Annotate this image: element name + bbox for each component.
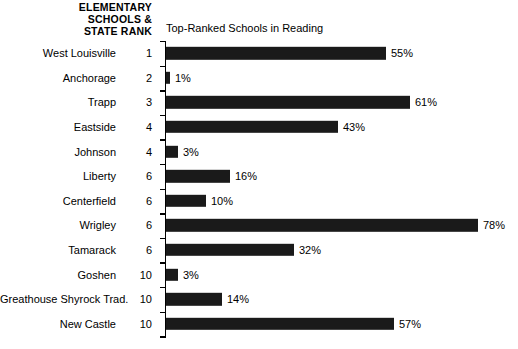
category-label: Trapp bbox=[0, 96, 116, 108]
bar-value-label: 78% bbox=[483, 219, 505, 231]
bar-row: West Louisville155% bbox=[0, 41, 518, 66]
bar-value-label: 57% bbox=[399, 318, 421, 330]
bar-value-label: 3% bbox=[183, 146, 199, 158]
bar-row: Centerfield610% bbox=[0, 189, 518, 214]
axis-tick-mark bbox=[160, 213, 165, 214]
bar-row: Liberty616% bbox=[0, 164, 518, 189]
bar bbox=[166, 170, 230, 182]
axis-tick-mark bbox=[160, 336, 165, 337]
bar-row: Eastside443% bbox=[0, 115, 518, 140]
axis-tick-mark bbox=[160, 90, 165, 91]
axis-header-line-3: STATE RANK bbox=[0, 26, 152, 38]
bar-row: Tamarack632% bbox=[0, 238, 518, 263]
bar bbox=[166, 47, 386, 59]
bar-row: Johnson43% bbox=[0, 139, 518, 164]
bar bbox=[166, 195, 206, 207]
state-rank-label: 6 bbox=[118, 244, 152, 256]
state-rank-label: 4 bbox=[118, 146, 152, 158]
bar bbox=[166, 293, 222, 305]
category-label: Anchorage bbox=[0, 72, 116, 84]
category-label: Johnson bbox=[0, 146, 116, 158]
bar-value-label: 14% bbox=[227, 293, 249, 305]
category-label: New Castle bbox=[0, 318, 116, 330]
axis-tick-mark bbox=[160, 41, 165, 42]
bar bbox=[166, 121, 338, 133]
axis-header-line-2: SCHOOLS & bbox=[0, 14, 152, 26]
bar bbox=[166, 318, 394, 330]
bar-row: Goshen103% bbox=[0, 262, 518, 287]
bar-row: Greathouse Shyrock Trad.1014% bbox=[0, 287, 518, 312]
bar bbox=[166, 268, 178, 280]
category-label: Tamarack bbox=[0, 244, 116, 256]
axis-tick-mark bbox=[160, 189, 165, 190]
bar bbox=[166, 96, 410, 108]
axis-tick-mark bbox=[160, 164, 165, 165]
state-rank-label: 3 bbox=[118, 96, 152, 108]
category-label: Wrigley bbox=[0, 219, 116, 231]
bar-row: Trapp361% bbox=[0, 90, 518, 115]
bar bbox=[166, 244, 294, 256]
axis-tick-mark bbox=[160, 262, 165, 263]
category-label: Goshen bbox=[0, 269, 116, 281]
state-rank-label: 1 bbox=[118, 47, 152, 59]
category-label: Centerfield bbox=[0, 195, 116, 207]
bar-value-label: 1% bbox=[175, 72, 191, 84]
state-rank-label: 6 bbox=[118, 219, 152, 231]
axis-tick-mark bbox=[160, 238, 165, 239]
axis-tick-mark bbox=[160, 115, 165, 116]
state-rank-label: 10 bbox=[118, 318, 152, 330]
chart-title: Top-Ranked Schools in Reading bbox=[166, 22, 506, 34]
axis-tick-mark bbox=[160, 139, 165, 140]
bar bbox=[166, 145, 178, 157]
bar bbox=[166, 72, 170, 84]
bar-value-label: 43% bbox=[343, 121, 365, 133]
category-label: Greathouse Shyrock Trad. bbox=[0, 293, 116, 305]
category-label: West Louisville bbox=[0, 47, 116, 59]
bar bbox=[166, 219, 478, 231]
axis-header-title: ELEMENTARY SCHOOLS & STATE RANK bbox=[0, 2, 152, 37]
bar-row: Anchorage21% bbox=[0, 66, 518, 91]
category-label: Eastside bbox=[0, 121, 116, 133]
bar-value-label: 16% bbox=[235, 170, 257, 182]
bar-value-label: 55% bbox=[391, 47, 413, 59]
state-rank-label: 2 bbox=[118, 72, 152, 84]
bar-row: New Castle1057% bbox=[0, 312, 518, 337]
bar-row: Wrigley678% bbox=[0, 213, 518, 238]
bar-value-label: 61% bbox=[415, 96, 437, 108]
bar-chart: ELEMENTARY SCHOOLS & STATE RANK Top-Rank… bbox=[0, 0, 518, 349]
axis-tick-mark bbox=[160, 66, 165, 67]
axis-tick-mark bbox=[160, 287, 165, 288]
category-label: Liberty bbox=[0, 170, 116, 182]
state-rank-label: 10 bbox=[118, 269, 152, 281]
axis-tick-mark bbox=[160, 312, 165, 313]
bar-value-label: 3% bbox=[183, 269, 199, 281]
bar-value-label: 10% bbox=[211, 195, 233, 207]
state-rank-label: 10 bbox=[118, 293, 152, 305]
plot-area: West Louisville155%Anchorage21%Trapp361%… bbox=[0, 41, 518, 339]
state-rank-label: 6 bbox=[118, 170, 152, 182]
state-rank-label: 6 bbox=[118, 195, 152, 207]
bar-value-label: 32% bbox=[299, 244, 321, 256]
state-rank-label: 4 bbox=[118, 121, 152, 133]
